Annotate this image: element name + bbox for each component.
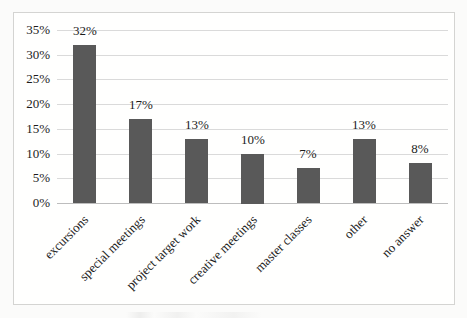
gridline — [57, 30, 448, 31]
data-label: 13% — [342, 118, 386, 132]
data-label: 7% — [286, 147, 330, 161]
gridline — [57, 104, 448, 105]
bar-no-answer — [409, 163, 432, 203]
ytick-label: 0% — [10, 196, 50, 210]
ytick-label: 20% — [10, 97, 50, 111]
data-label: 32% — [63, 24, 107, 38]
scan-artifact — [0, 312, 467, 318]
bar-creative-meetings — [241, 154, 264, 204]
ytick-label: 10% — [10, 147, 50, 161]
gridline — [57, 129, 448, 130]
data-label: 17% — [119, 98, 163, 112]
data-label: 10% — [231, 133, 275, 147]
bar-project-target-work — [185, 139, 208, 203]
gridline — [57, 55, 448, 56]
ytick-label: 35% — [10, 23, 50, 37]
ytick-label: 25% — [10, 72, 50, 86]
ytick-label: 30% — [10, 48, 50, 62]
bar-master-classes — [297, 168, 320, 203]
bar-special-meetings — [129, 119, 152, 203]
bar-excursions — [73, 45, 96, 203]
gridline — [57, 79, 448, 80]
data-label: 8% — [398, 142, 442, 156]
bar-other — [353, 139, 376, 203]
data-label: 13% — [175, 118, 219, 132]
ytick-label: 5% — [10, 171, 50, 185]
category-label-anchor: no answer — [286, 212, 416, 213]
bar-chart: 0%5%10%15%20%25%30%35% 32%17%13%10%7%13%… — [0, 0, 467, 318]
ytick-label: 15% — [10, 122, 50, 136]
